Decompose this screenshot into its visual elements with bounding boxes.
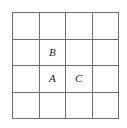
grid-cell-r1c3 bbox=[66, 13, 93, 40]
grid-diagram-figure: B A C bbox=[0, 0, 127, 128]
grid-cell-label-c: C bbox=[75, 73, 82, 84]
grid-container: B A C bbox=[12, 12, 119, 119]
grid-cell-label-a: A bbox=[49, 73, 56, 84]
grid-cell-r3c1 bbox=[13, 66, 40, 93]
grid-cell-r1c2 bbox=[40, 13, 67, 40]
grid-cell-r1c1 bbox=[13, 13, 40, 40]
grid-cell-r2c1 bbox=[13, 40, 40, 67]
grid-cell-r2c3 bbox=[66, 40, 93, 67]
grid-cell-label-b: B bbox=[49, 47, 56, 58]
grid-cell-r4c3 bbox=[66, 93, 93, 120]
grid-cell-r3c3: C bbox=[66, 66, 93, 93]
grid-cell-r4c4 bbox=[93, 93, 120, 120]
grid-cell-r2c4 bbox=[93, 40, 120, 67]
grid-cell-r4c2 bbox=[40, 93, 67, 120]
grid-cell-r1c4 bbox=[93, 13, 120, 40]
grid-cell-r3c4 bbox=[93, 66, 120, 93]
grid-cell-r4c1 bbox=[13, 93, 40, 120]
grid-cell-r2c2: B bbox=[40, 40, 67, 67]
grid-cell-r3c2: A bbox=[40, 66, 67, 93]
